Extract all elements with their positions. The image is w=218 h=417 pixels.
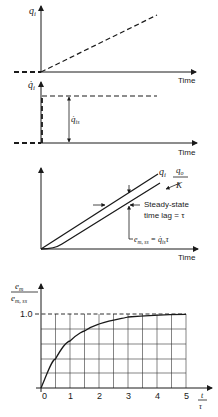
- svg-text:1: 1: [68, 391, 73, 401]
- y-axis-label-den: em, ss: [11, 293, 28, 304]
- input-curve-label: qi: [159, 166, 166, 179]
- svg-text:0: 0: [42, 391, 47, 401]
- svg-text:2: 2: [97, 391, 102, 401]
- step-magnitude-label: q̇is: [71, 114, 80, 125]
- svg-text:3: 3: [126, 391, 131, 401]
- output-curve-label-den: K: [175, 180, 183, 190]
- x-axis-label: Time: [178, 148, 196, 157]
- output-curve-label-num: qo: [176, 165, 184, 176]
- ramp-dashed-line: [41, 15, 157, 72]
- y-axis-label: qi: [29, 5, 36, 18]
- grid: [41, 314, 186, 388]
- y-axis-label: q̇i: [28, 79, 35, 92]
- lag-annotation-line2: time lag = τ: [144, 211, 185, 220]
- panel-input-rate-step: q̇i q̇is Time: [14, 79, 197, 157]
- svg-text:4: 4: [155, 391, 160, 401]
- x-axis-label: Time: [178, 253, 196, 262]
- panel-input-ramp: qi Time: [14, 5, 196, 85]
- lag-annotation-line1: Steady-state: [144, 200, 189, 209]
- y-tick-label: 1.0: [20, 309, 33, 319]
- error-leader-line: [129, 213, 133, 239]
- y-axis-label-num: em: [15, 281, 24, 292]
- svg-text:5: 5: [184, 391, 189, 401]
- x-axis-label-num: t: [201, 391, 204, 400]
- diagram-canvas: qi Time q̇i q̇is Time qi qo K Steady-sta…: [0, 0, 218, 417]
- x-tick-labels: 0 1 2 3 4 5: [42, 391, 189, 401]
- input-ramp-line: [41, 174, 158, 249]
- panel-normalized-error: 1.0 0 1 2 3 4 5 em em, ss t τ: [11, 281, 212, 411]
- error-annotation: em, ss = q̇isτ: [134, 235, 170, 245]
- x-axis-label-den: τ: [199, 402, 203, 411]
- panel-ramp-response: qi qo K Steady-state time lag = τ em, ss…: [41, 165, 198, 262]
- x-axis-label: Time: [178, 76, 196, 85]
